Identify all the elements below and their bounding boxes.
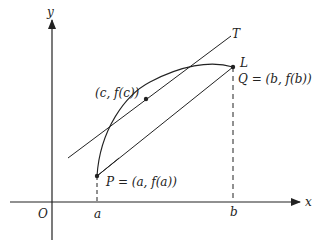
secant-extension (97, 158, 119, 176)
x-axis-label: x (305, 196, 312, 208)
tick-b-label: b (230, 206, 238, 218)
point-q-label: Q = (b, f(b)) (238, 73, 312, 85)
point-q (231, 65, 235, 69)
point-p (95, 174, 99, 178)
y-axis-label: y (47, 6, 54, 18)
tick-a-label: a (94, 208, 101, 220)
point-c (144, 97, 148, 101)
point-p-label: P = (a, f(a)) (106, 176, 177, 188)
tangent-line (68, 36, 231, 158)
mean-value-theorem-diagram: y x O a b P = (a, f(a)) Q = (b, f(b)) (c… (0, 0, 322, 246)
diagram-canvas (0, 0, 322, 246)
point-c-label: (c, f(c)) (95, 87, 139, 99)
secant-label: L (240, 57, 248, 69)
tangent-label: T (232, 28, 240, 40)
origin-label: O (38, 208, 48, 220)
